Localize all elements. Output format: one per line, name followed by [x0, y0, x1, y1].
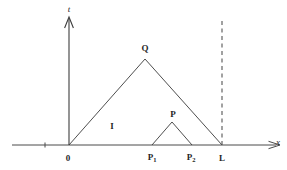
t-axis — [65, 17, 74, 145]
region-label-I: I — [110, 122, 114, 131]
small-characteristic-triangle — [152, 122, 192, 145]
point-label-Q: Q — [141, 44, 148, 53]
large-triangle-left-leg — [69, 59, 145, 145]
diagram-canvas — [0, 0, 287, 170]
origin-label: 0 — [66, 154, 71, 163]
point-label-P2-subscript: 2 — [192, 156, 195, 163]
point-label-P1-subscript: 1 — [153, 156, 156, 163]
point-label-P1: P1 — [148, 153, 157, 164]
point-label-L: L — [219, 154, 225, 163]
small-triangle-right-leg — [172, 122, 192, 145]
point-label-P: P — [170, 110, 176, 119]
x-axis — [12, 141, 280, 148]
characteristic-diagram-figure: t x Q P I 0 P1 P2 L — [0, 0, 287, 170]
large-characteristic-triangle — [69, 59, 222, 145]
x-axis-label: x — [276, 138, 280, 147]
point-label-P2: P2 — [187, 153, 196, 164]
t-axis-label: t — [68, 5, 71, 14]
small-triangle-left-leg — [152, 122, 172, 145]
large-triangle-right-leg — [145, 59, 222, 145]
